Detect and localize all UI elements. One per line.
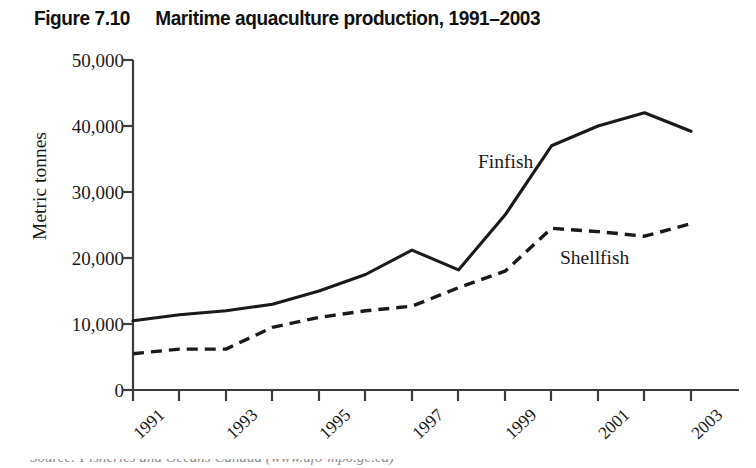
plot-area	[0, 0, 756, 468]
y-axis-ticks	[122, 60, 133, 390]
figure-page: Figure 7.10Maritime aquaculture producti…	[0, 0, 756, 468]
line-chart: 50,000 40,000 30,000 20,000 10,000 0 Met…	[0, 0, 756, 468]
source-note-text: Source: Fisheries and Oceans Canada (www…	[30, 459, 394, 465]
series-label-shellfish: Shellfish	[560, 248, 629, 268]
series-label-finfish: Finfish	[478, 152, 533, 172]
series-line-shellfish	[133, 224, 691, 354]
x-axis-ticks	[133, 390, 691, 401]
source-note: Source: Fisheries and Oceans Canada (www…	[30, 459, 730, 468]
series-line-finfish	[133, 113, 691, 321]
